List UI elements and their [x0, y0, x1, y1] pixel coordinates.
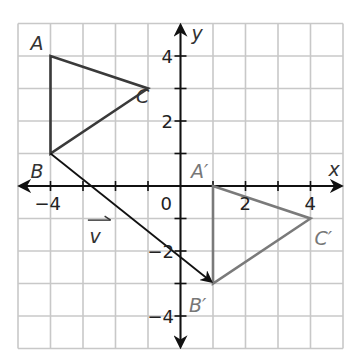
triangle-abc — [51, 56, 149, 154]
x-tick-label: 2 — [240, 193, 251, 214]
origin-label: 0 — [161, 193, 172, 214]
x-tick-label: −4 — [35, 193, 62, 214]
y-axis-label: y — [191, 22, 204, 44]
x-axis-label: x — [327, 158, 340, 180]
vertex-label: A′ — [189, 160, 209, 182]
y-tick-label: 4 — [162, 46, 173, 67]
vector-label: v — [88, 216, 111, 247]
vertex-label: B′ — [189, 294, 207, 316]
vertex-label: C — [136, 85, 150, 107]
labels: xy−42442−2−40ABCA′B′C′v — [29, 22, 341, 327]
triangle-a-prime-b-prime-c-prime — [213, 186, 311, 284]
coordinate-plane: xy−42442−2−40ABCA′B′C′v — [0, 0, 360, 359]
vertex-label: A — [29, 32, 44, 54]
translation-vector — [51, 154, 212, 282]
vertex-label: C′ — [315, 227, 333, 249]
vector-label-text: v — [90, 225, 102, 247]
axes — [20, 26, 341, 347]
y-tick-label: −4 — [148, 306, 175, 327]
x-tick-label: 4 — [305, 193, 316, 214]
vertex-label: B — [31, 160, 44, 182]
y-tick-label: 2 — [162, 111, 173, 132]
y-tick-label: −2 — [148, 241, 175, 262]
